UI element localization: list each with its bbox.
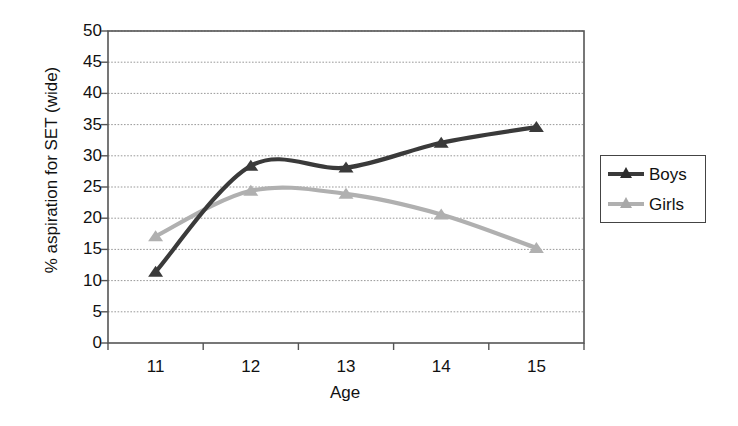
legend: Boys Girls <box>600 155 706 223</box>
legend-swatch-girls-icon <box>607 195 645 213</box>
legend-label-boys: Boys <box>649 165 687 184</box>
legend-swatch-boys-icon <box>607 165 645 183</box>
chart-container: % aspiration for SET (wide) 051015202530… <box>0 0 738 426</box>
data-series <box>148 121 544 277</box>
legend-entry-boys: Boys <box>607 159 705 189</box>
legend-label-girls: Girls <box>649 195 684 214</box>
legend-entry-girls: Girls <box>607 189 705 219</box>
series-girls <box>148 185 544 253</box>
axis-ticks <box>101 31 584 350</box>
series-boys <box>148 121 544 277</box>
